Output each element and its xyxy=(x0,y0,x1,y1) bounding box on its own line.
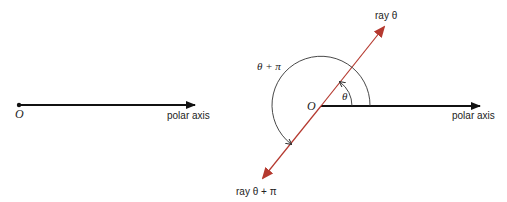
small-angle-label: θ xyxy=(342,90,348,102)
ray-theta-label: ray θ xyxy=(375,10,398,21)
large-angle-label: θ + π xyxy=(257,60,281,72)
polar-axis-label: polar axis xyxy=(167,110,210,121)
origin-label: O xyxy=(15,107,24,121)
ray-theta-plus-pi-label: ray θ + π xyxy=(236,186,277,197)
left-polar-axis-diagram: O polar axis xyxy=(15,103,210,121)
ray-theta-plus-pi xyxy=(263,106,321,178)
ray-theta xyxy=(321,27,384,106)
polar-diagram: O polar axis O θ θ + π polar axis ray θ … xyxy=(0,0,507,202)
origin-label: O xyxy=(307,99,316,113)
polar-axis-label: polar axis xyxy=(452,110,495,121)
right-polar-ray-diagram: O θ θ + π polar axis ray θ ray θ + π xyxy=(236,10,495,197)
theta-plus-pi-angle-arc xyxy=(272,56,370,144)
